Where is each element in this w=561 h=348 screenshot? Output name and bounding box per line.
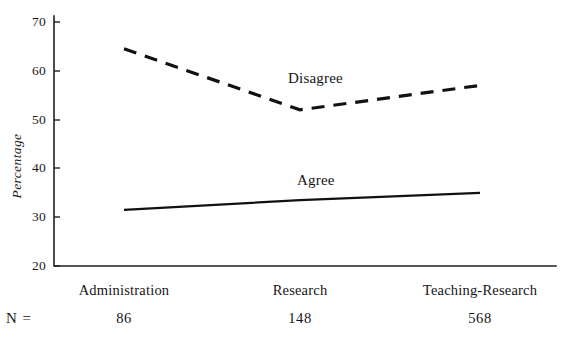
n-value-teaching-research: 568 — [395, 310, 561, 327]
y-tick-label-60: 60 — [16, 64, 46, 78]
series-label-disagree: Disagree — [288, 70, 343, 87]
n-value-administration: 86 — [54, 310, 194, 327]
y-tick-label-70: 70 — [16, 15, 46, 29]
n-legend-label: N = — [6, 310, 32, 327]
chart-axes — [54, 16, 556, 266]
y-axis-title: Percentage — [9, 118, 25, 214]
y-tick-label-20: 20 — [16, 259, 46, 273]
series-label-agree: Agree — [297, 172, 335, 189]
x-category-label-administration: Administration — [54, 282, 194, 299]
x-category-label-research: Research — [240, 282, 360, 299]
x-category-label-teaching-research: Teaching-Research — [395, 282, 561, 299]
n-value-research: 148 — [240, 310, 360, 327]
series-line-agree — [124, 193, 480, 210]
chart-figure: 70 60 50 40 30 20 Percentage Disagree Ag… — [0, 0, 561, 348]
